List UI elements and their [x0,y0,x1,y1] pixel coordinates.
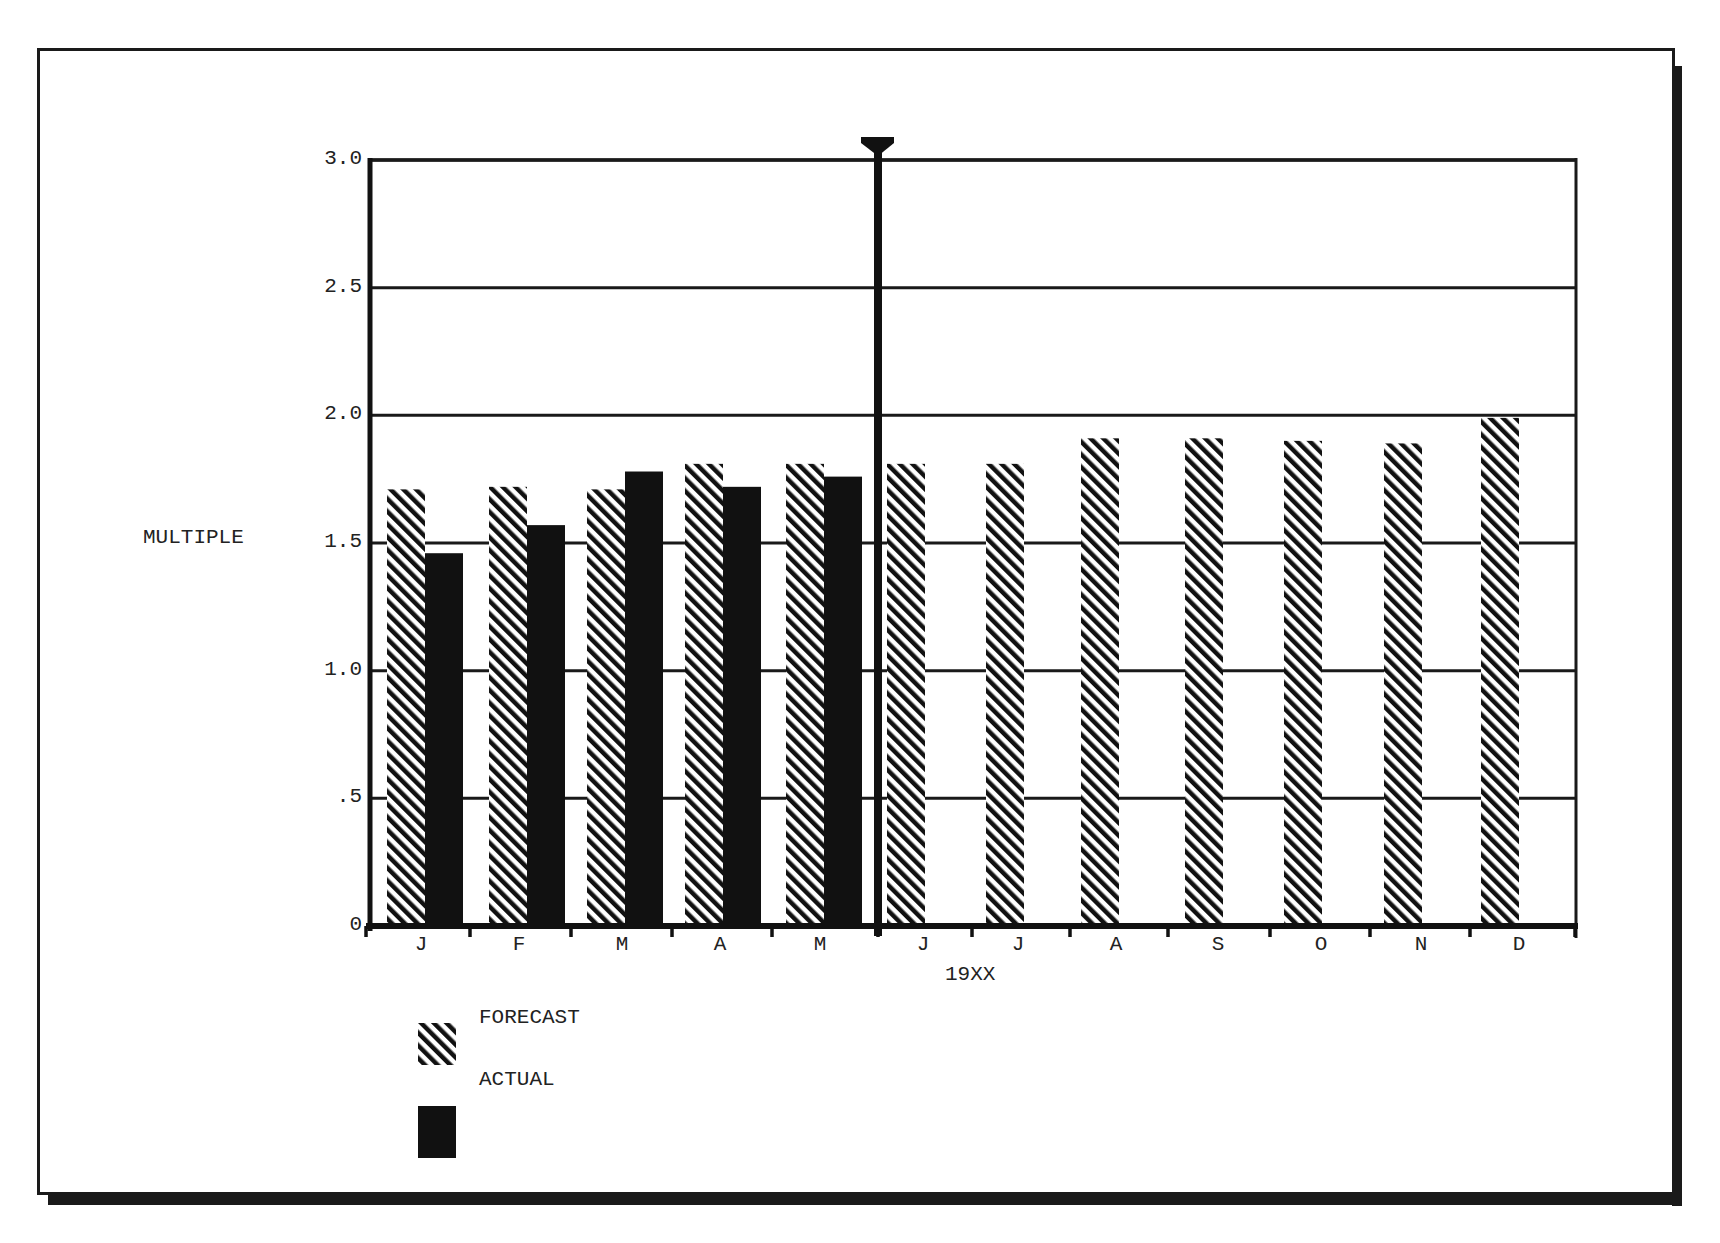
y-tick-label: 2.0 [302,402,362,425]
forecast-bar [887,464,925,926]
forecast-bar [685,464,723,926]
bar-chart [0,0,1720,1243]
x-tick-label: M [602,933,642,956]
x-tick-label: F [499,933,539,956]
forecast-bar [489,487,527,926]
x-tick-label: M [800,933,840,956]
forecast-bar [1384,443,1422,926]
x-tick-label: J [998,933,1038,956]
x-tick-label: O [1301,933,1341,956]
forecast-bar [587,489,625,926]
actual-bar [527,525,565,926]
actual-bar [723,487,761,926]
x-axis-year-label: 19XX [945,963,995,986]
forecast-bar [387,489,425,926]
x-tick-label: S [1198,933,1238,956]
y-tick-label: .5 [302,785,362,808]
down-arrow-icon [861,137,894,156]
forecast-bar [1284,441,1322,926]
actual-bar [625,472,663,926]
y-tick-label: 3.0 [302,147,362,170]
y-axis-title: MULTIPLE [143,526,244,549]
forecast-bar [786,464,824,926]
x-tick-label: N [1401,933,1441,956]
y-tick-label: 1.5 [302,530,362,553]
x-tick-label: A [700,933,740,956]
x-tick-label: A [1096,933,1136,956]
actual-bar [824,477,862,926]
forecast-bar [1081,438,1119,926]
y-tick-label: 1.0 [302,658,362,681]
legend-swatch-actual [418,1106,456,1158]
legend-swatch-forecast [418,1023,456,1065]
legend-label-actual: ACTUAL [479,1068,555,1091]
legend-label-forecast: FORECAST [479,1006,580,1029]
x-tick-label: J [903,933,943,956]
x-tick-label: D [1499,933,1539,956]
y-tick-label: 2.5 [302,275,362,298]
forecast-bar [986,464,1024,926]
x-tick-label: J [401,933,441,956]
forecast-bar [1481,418,1519,926]
forecast-bar [1185,438,1223,926]
y-tick-label: 0 [302,913,362,936]
actual-bar [425,553,463,926]
